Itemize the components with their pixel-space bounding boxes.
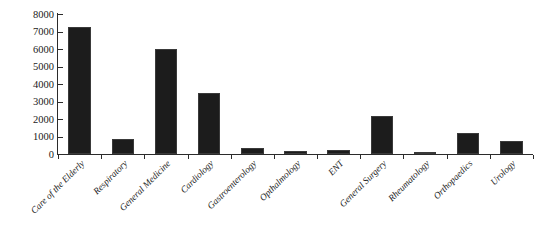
bar bbox=[284, 151, 306, 154]
bars-container bbox=[58, 14, 533, 154]
x-axis-labels: Care of the ElderlyRespiratoryGeneral Me… bbox=[0, 155, 544, 230]
bar bbox=[327, 150, 349, 154]
bar bbox=[500, 141, 522, 154]
bar-chart: 010002000300040005000600070008000 Care o… bbox=[0, 0, 544, 230]
bar bbox=[68, 27, 90, 154]
y-tick-label: 7000 bbox=[33, 27, 54, 38]
y-tick-label: 5000 bbox=[33, 62, 54, 73]
bar bbox=[371, 116, 393, 154]
bar bbox=[198, 93, 220, 154]
bar bbox=[457, 133, 479, 154]
y-tick-label: 2000 bbox=[33, 114, 54, 125]
bar bbox=[241, 148, 263, 154]
bar bbox=[112, 139, 134, 154]
y-tick-label: 1000 bbox=[33, 132, 54, 143]
y-tick-label: 6000 bbox=[33, 44, 54, 55]
y-tick-label: 4000 bbox=[33, 79, 54, 90]
bar bbox=[155, 49, 177, 154]
y-tick-label: 8000 bbox=[33, 9, 54, 20]
y-tick-label: 3000 bbox=[33, 97, 54, 108]
bar bbox=[414, 152, 436, 154]
